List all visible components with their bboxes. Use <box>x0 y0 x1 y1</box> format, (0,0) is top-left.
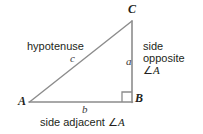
side-length-label-a: a <box>126 56 132 67</box>
angle-symbol-icon: ∠ <box>108 116 118 128</box>
side-adjacent-text: side adjacent <box>40 116 108 128</box>
side-length-label-b: b <box>82 104 88 115</box>
hypotenuse-line <box>30 21 133 102</box>
hypotenuse-annotation: hypotenuse <box>27 41 84 52</box>
side-adjacent-annotation: side adjacent ∠A <box>40 117 125 128</box>
angle-symbol-icon: ∠ <box>143 64 153 76</box>
side-opposite-line-2: opposite <box>143 52 185 64</box>
side-opposite-line-1: side <box>143 40 185 52</box>
side-opposite-line-3: ∠A <box>143 64 185 76</box>
vertex-label-a: A <box>18 95 26 107</box>
side-opposite-annotation: side opposite ∠A <box>143 40 185 76</box>
side-adjacent-vertex-ref: A <box>118 116 125 128</box>
side-length-label-c: c <box>70 53 75 64</box>
right-angle-marker-icon <box>122 92 132 102</box>
side-opposite-vertex-ref: A <box>153 64 160 76</box>
vertex-label-b: B <box>135 92 143 104</box>
vertex-label-c: C <box>128 3 136 15</box>
right-triangle-figure: C A B a b c hypotenuse side opposite ∠A … <box>0 0 203 134</box>
